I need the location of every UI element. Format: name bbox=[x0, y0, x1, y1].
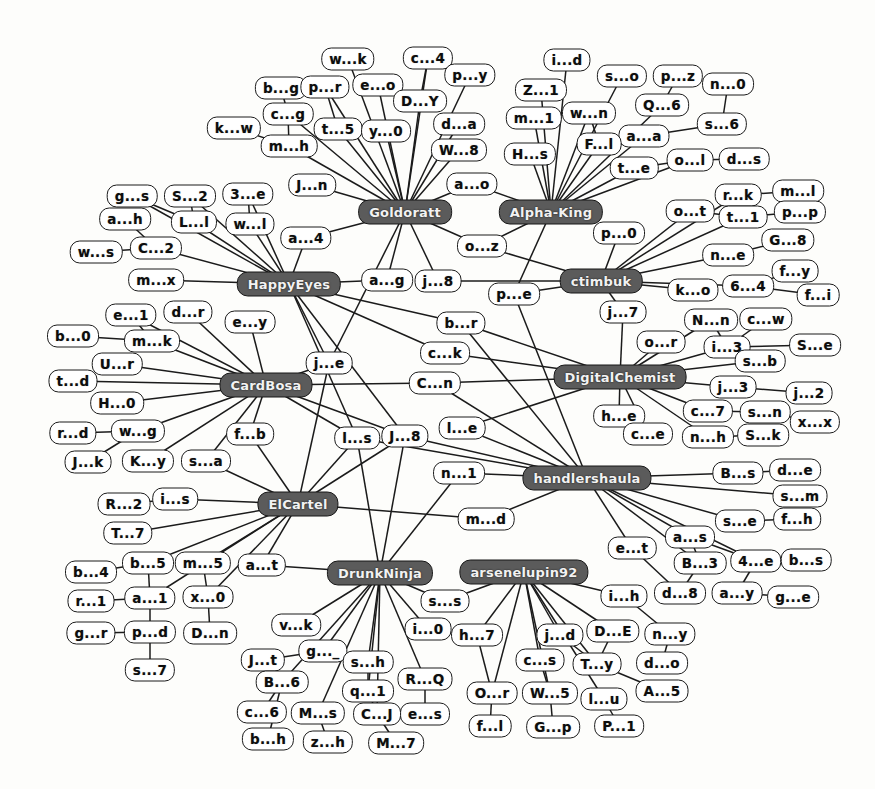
graph-node-leaf[interactable]: b...r bbox=[436, 312, 485, 335]
graph-node-hub-goldoratt[interactable]: Goldoratt bbox=[358, 200, 452, 225]
graph-node-leaf[interactable]: r...d bbox=[49, 422, 96, 445]
graph-node-leaf[interactable]: b...h bbox=[242, 728, 294, 751]
graph-node-leaf[interactable]: g...r bbox=[66, 622, 115, 645]
graph-node-leaf[interactable]: U...r bbox=[92, 353, 143, 376]
graph-node-leaf[interactable]: x...0 bbox=[183, 586, 234, 609]
graph-node-leaf[interactable]: t...1 bbox=[719, 206, 768, 229]
graph-node-leaf[interactable]: J...t bbox=[241, 649, 285, 672]
graph-node-leaf[interactable]: j...3 bbox=[710, 376, 757, 399]
graph-node-leaf[interactable]: j...7 bbox=[600, 301, 647, 324]
graph-node-leaf[interactable]: a...1 bbox=[124, 587, 175, 610]
graph-node-leaf[interactable]: P...1 bbox=[594, 715, 644, 738]
graph-node-leaf[interactable]: r...k bbox=[715, 184, 762, 207]
graph-node-leaf[interactable]: p...r bbox=[300, 76, 349, 99]
graph-node-leaf[interactable]: D...n bbox=[183, 622, 237, 645]
graph-node-leaf[interactable]: c...7 bbox=[683, 400, 733, 423]
graph-node-leaf[interactable]: g...e bbox=[767, 586, 819, 609]
graph-node-leaf[interactable]: v...k bbox=[271, 614, 321, 637]
graph-node-leaf[interactable]: H...0 bbox=[90, 392, 144, 415]
graph-node-leaf[interactable]: f...i bbox=[797, 284, 840, 307]
graph-node-leaf[interactable]: 4...e bbox=[730, 550, 781, 573]
graph-node-leaf[interactable]: l...s bbox=[334, 427, 380, 450]
graph-node-leaf[interactable]: b...4 bbox=[65, 561, 117, 584]
graph-node-leaf[interactable]: y...0 bbox=[361, 120, 411, 143]
graph-node-leaf[interactable]: d...s bbox=[719, 148, 770, 171]
graph-node-leaf[interactable]: s...b bbox=[735, 350, 786, 373]
graph-node-leaf[interactable]: o...z bbox=[457, 235, 507, 258]
graph-node-leaf[interactable]: m...x bbox=[128, 269, 184, 292]
graph-node-leaf[interactable]: f...h bbox=[773, 508, 821, 531]
graph-node-leaf[interactable]: C...2 bbox=[130, 237, 182, 260]
graph-node-leaf[interactable]: m...l bbox=[772, 180, 824, 203]
graph-node-leaf[interactable]: L...l bbox=[171, 211, 217, 234]
graph-node-leaf[interactable]: j...d bbox=[536, 624, 583, 647]
graph-node-leaf[interactable]: c...g bbox=[263, 103, 314, 126]
graph-node-leaf[interactable]: n...e bbox=[702, 244, 754, 267]
graph-node-leaf[interactable]: n...y bbox=[644, 623, 695, 646]
graph-node-leaf[interactable]: s...o bbox=[597, 65, 647, 88]
graph-node-leaf[interactable]: g...s bbox=[107, 185, 158, 208]
graph-node-leaf[interactable]: w...k bbox=[321, 48, 374, 71]
graph-node-leaf[interactable]: M...7 bbox=[368, 732, 424, 755]
graph-node-leaf[interactable]: W...5 bbox=[522, 682, 578, 705]
graph-node-leaf[interactable]: T...7 bbox=[103, 522, 152, 545]
graph-node-leaf[interactable]: K...y bbox=[122, 450, 174, 473]
graph-node-leaf[interactable]: c...e bbox=[623, 423, 673, 446]
graph-node-leaf[interactable]: Q...6 bbox=[635, 94, 689, 117]
graph-node-leaf[interactable]: p...d bbox=[124, 621, 176, 644]
graph-node-leaf[interactable]: h...7 bbox=[451, 624, 503, 647]
graph-node-leaf[interactable]: n...0 bbox=[702, 73, 754, 96]
graph-node-leaf[interactable]: w...s bbox=[70, 241, 123, 264]
graph-node-leaf[interactable]: C...n bbox=[409, 372, 461, 395]
graph-node-leaf[interactable]: f...l bbox=[469, 715, 512, 738]
graph-node-leaf[interactable]: m...k bbox=[124, 330, 180, 353]
graph-node-leaf[interactable]: n...1 bbox=[433, 462, 485, 485]
graph-node-hub-ctimbuk[interactable]: ctimbuk bbox=[560, 269, 643, 294]
graph-node-leaf[interactable]: s...h bbox=[343, 651, 394, 674]
graph-node-leaf[interactable]: B...3 bbox=[674, 552, 727, 575]
graph-node-leaf[interactable]: d...o bbox=[636, 652, 688, 675]
graph-node-leaf[interactable]: k...w bbox=[207, 117, 261, 140]
graph-node-leaf[interactable]: s...7 bbox=[125, 659, 175, 682]
graph-node-hub-handlershaula[interactable]: handlershaula bbox=[522, 466, 651, 491]
graph-node-leaf[interactable]: g..._ bbox=[298, 640, 347, 663]
graph-node-hub-happyeyes[interactable]: HappyEyes bbox=[237, 272, 341, 297]
graph-node-leaf[interactable]: o...l bbox=[667, 149, 714, 172]
graph-node-leaf[interactable]: x...x bbox=[790, 411, 840, 434]
graph-node-leaf[interactable]: s...a bbox=[181, 450, 231, 473]
graph-node-leaf[interactable]: G...8 bbox=[761, 229, 814, 252]
graph-node-leaf[interactable]: i...h bbox=[600, 585, 647, 608]
graph-node-leaf[interactable]: s...n bbox=[740, 401, 791, 424]
graph-node-leaf[interactable]: p...p bbox=[774, 201, 826, 224]
graph-node-leaf[interactable]: j...8 bbox=[415, 270, 462, 293]
graph-node-leaf[interactable]: w...l bbox=[225, 213, 274, 236]
graph-node-leaf[interactable]: q...1 bbox=[342, 680, 394, 703]
graph-node-leaf[interactable]: a...a bbox=[618, 125, 669, 148]
graph-node-hub-alphaking[interactable]: Alpha-King bbox=[499, 200, 603, 225]
graph-node-leaf[interactable]: Z...1 bbox=[515, 79, 567, 102]
graph-node-leaf[interactable]: F...l bbox=[577, 133, 622, 156]
graph-node-leaf[interactable]: R...2 bbox=[98, 493, 151, 516]
graph-node-leaf[interactable]: o...t bbox=[666, 200, 715, 223]
graph-node-leaf[interactable]: b...5 bbox=[122, 552, 174, 575]
graph-node-leaf[interactable]: W...8 bbox=[431, 139, 487, 162]
graph-node-hub-drunkninja[interactable]: DrunkNinja bbox=[327, 561, 433, 586]
graph-node-hub-elcartel[interactable]: ElCartel bbox=[257, 492, 338, 517]
graph-node-leaf[interactable]: e...t bbox=[608, 537, 657, 560]
graph-node-leaf[interactable]: b...g bbox=[255, 77, 307, 100]
graph-node-leaf[interactable]: a...g bbox=[361, 269, 413, 292]
graph-node-leaf[interactable]: C...J bbox=[353, 703, 401, 726]
graph-node-leaf[interactable]: O...r bbox=[467, 682, 518, 705]
graph-node-leaf[interactable]: i...s bbox=[152, 488, 198, 511]
graph-node-leaf[interactable]: R...Q bbox=[397, 668, 452, 691]
graph-node-leaf[interactable]: c...s bbox=[516, 649, 565, 672]
graph-node-leaf[interactable]: S...e bbox=[789, 334, 841, 357]
graph-node-leaf[interactable]: l...e bbox=[439, 417, 486, 440]
graph-node-leaf[interactable]: N...n bbox=[684, 309, 738, 332]
graph-node-leaf[interactable]: a...o bbox=[446, 173, 497, 196]
graph-node-leaf[interactable]: t...d bbox=[48, 370, 97, 393]
graph-node-leaf[interactable]: J...n bbox=[288, 174, 336, 197]
graph-node-hub-arsenelupin92[interactable]: arsenelupin92 bbox=[459, 560, 588, 585]
graph-node-leaf[interactable]: J...k bbox=[65, 451, 112, 474]
graph-node-leaf[interactable]: s...e bbox=[715, 510, 765, 533]
